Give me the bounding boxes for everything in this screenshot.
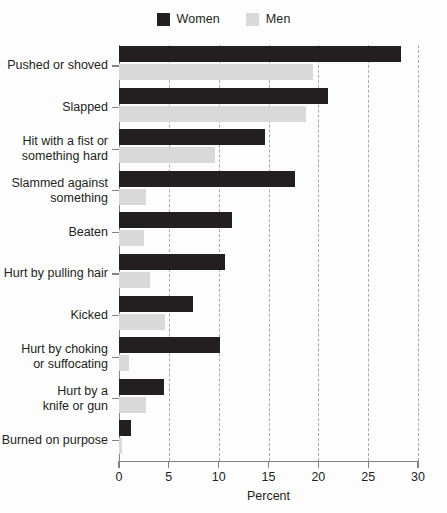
bar-group	[119, 128, 418, 170]
y-axis-label-line: something	[0, 191, 108, 206]
y-axis-label-line: Burned on purpose	[0, 433, 108, 448]
legend-item-women: Women	[157, 13, 220, 26]
y-tick-mark	[112, 232, 119, 233]
bar-women	[119, 420, 131, 436]
bar-group	[119, 211, 418, 253]
y-axis-label: Burned on purpose	[0, 433, 108, 448]
gridline-30	[418, 45, 420, 461]
bar-women	[119, 88, 328, 104]
y-tick-mark	[112, 107, 119, 108]
y-axis-label-line: Hurt by a	[0, 384, 108, 399]
y-tick-mark	[112, 315, 119, 316]
x-axis-tick-label: 0	[116, 470, 123, 484]
y-tick-mark	[112, 398, 119, 399]
y-axis-label: Hurt by chokingor suffocating	[0, 342, 108, 372]
y-axis-label-line: Pushed or shoved	[0, 58, 108, 73]
x-tick-mark-30	[417, 461, 418, 468]
x-axis-tick-label: 15	[262, 470, 276, 484]
y-tick-mark	[112, 273, 119, 274]
legend-label-women: Women	[177, 13, 220, 26]
x-axis-tick-label: 10	[212, 470, 226, 484]
legend-label-men: Men	[266, 13, 291, 26]
x-tick-mark-0	[118, 461, 119, 468]
bar-men	[119, 106, 306, 122]
bar-men	[119, 314, 165, 330]
y-axis-label: Hurt by aknife or gun	[0, 384, 108, 414]
bar-women	[119, 129, 265, 145]
bar-group	[119, 253, 418, 295]
y-axis-label: Slapped	[0, 100, 108, 115]
y-tick-mark	[112, 190, 119, 191]
y-axis-label-line: Hurt by pulling hair	[0, 266, 108, 281]
y-axis-label: Beaten	[0, 225, 108, 240]
y-axis-label: Pushed or shoved	[0, 58, 108, 73]
bar-women	[119, 212, 232, 228]
x-tick-mark-5	[168, 461, 169, 468]
legend-swatch-women-icon	[157, 13, 170, 26]
bar-women	[119, 254, 225, 270]
bar-men	[119, 355, 129, 371]
bar-men	[119, 147, 215, 163]
y-axis-label-line: Slammed against	[0, 176, 108, 191]
bar-group	[119, 419, 418, 461]
y-axis-label: Kicked	[0, 308, 108, 323]
y-tick-mark	[112, 65, 119, 66]
x-axis-tick-label: 25	[361, 470, 375, 484]
bar-group	[119, 295, 418, 337]
y-axis-label-line: Slapped	[0, 100, 108, 115]
bar-men	[119, 230, 144, 246]
y-axis-label-line: knife or gun	[0, 399, 108, 414]
bar-men	[119, 397, 146, 413]
y-axis-label: Slammed againstsomething	[0, 176, 108, 206]
x-tick-mark-15	[268, 461, 269, 468]
x-tick-mark-25	[368, 461, 369, 468]
y-axis-label-line: Beaten	[0, 225, 108, 240]
x-axis-title: Percent	[119, 489, 418, 503]
y-axis-label: Hit with a fist orsomething hard	[0, 134, 108, 164]
x-tick-mark-10	[218, 461, 219, 468]
bar-group	[119, 336, 418, 378]
legend-item-men: Men	[246, 13, 291, 26]
bar-men	[119, 189, 146, 205]
bar-men	[119, 272, 150, 288]
chart-legend: Women Men	[0, 13, 447, 26]
y-tick-mark	[112, 149, 119, 150]
y-axis-label-line: Hurt by choking	[0, 342, 108, 357]
bar-group	[119, 378, 418, 420]
bar-group	[119, 170, 418, 212]
x-axis-tick-label: 20	[311, 470, 325, 484]
bar-women	[119, 46, 401, 62]
chart-bars	[119, 45, 418, 461]
y-axis-label: Hurt by pulling hair	[0, 266, 108, 281]
bar-women	[119, 171, 295, 187]
x-axis-tick-label: 5	[165, 470, 172, 484]
bar-group	[119, 87, 418, 129]
bar-women	[119, 337, 220, 353]
bar-group	[119, 45, 418, 87]
bar-women	[119, 379, 164, 395]
y-axis-label-line: Kicked	[0, 308, 108, 323]
bar-men	[119, 64, 313, 80]
legend-swatch-men-icon	[246, 13, 259, 26]
x-tick-mark-20	[318, 461, 319, 468]
y-axis-label-line: Hit with a fist or	[0, 134, 108, 149]
y-axis-label-line: or suffocating	[0, 357, 108, 372]
bar-women	[119, 296, 193, 312]
y-axis-label-line: something hard	[0, 149, 108, 164]
bar-men	[119, 438, 122, 454]
y-tick-mark	[112, 357, 119, 358]
x-axis-tick-label: 30	[411, 470, 425, 484]
y-tick-mark	[112, 440, 119, 441]
